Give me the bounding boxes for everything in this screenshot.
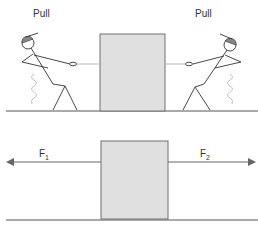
- stick-figure-right: [183, 34, 241, 110]
- tug-of-war-diagram: [0, 0, 258, 225]
- force-f1-subscript: 1: [45, 154, 49, 161]
- arrowhead-left-icon: [6, 158, 14, 166]
- force-f2-subscript: 2: [206, 154, 210, 161]
- stick-figure-left: [22, 33, 77, 110]
- pull-label-left: Pull: [33, 8, 50, 19]
- force-label-f2: F2: [200, 148, 210, 161]
- block-top: [100, 34, 165, 111]
- arrowhead-right-icon: [248, 158, 256, 166]
- pull-label-right: Pull: [195, 8, 212, 19]
- force-label-f1: F1: [39, 148, 49, 161]
- block-bottom: [101, 141, 168, 219]
